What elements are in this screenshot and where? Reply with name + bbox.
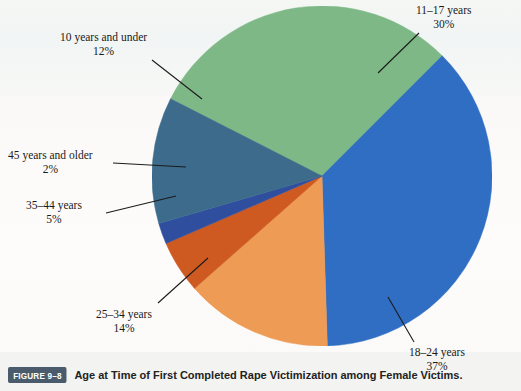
slice-label-25-34-years: 25–34 years 14% xyxy=(96,307,152,336)
slice-label-name: 35–44 years xyxy=(26,199,82,211)
pie-chart xyxy=(152,6,492,346)
slice-label-name: 25–34 years xyxy=(96,308,152,320)
slice-label-percent: 12% xyxy=(60,44,147,58)
slice-label-percent: 30% xyxy=(416,17,471,31)
slice-label-percent: 5% xyxy=(26,212,82,226)
figure-number-badge: FIGURE 9–8 xyxy=(8,367,67,383)
pie-slice-group xyxy=(152,6,492,346)
slice-label-name: 45 years and older xyxy=(8,149,93,161)
slice-label-45-years-and-older: 45 years and older 2% xyxy=(8,148,93,177)
slice-label-name: 11–17 years xyxy=(416,4,471,16)
slice-label-percent: 2% xyxy=(8,162,93,176)
slice-label-10-years-and-under: 10 years and under 12% xyxy=(60,30,147,59)
pie-chart-svg xyxy=(152,6,492,346)
figure-page: 11–17 years 30% 18–24 years 37% 25–34 ye… xyxy=(0,0,521,391)
slice-label-name: 10 years and under xyxy=(60,31,147,43)
slice-label-11-17-years: 11–17 years 30% xyxy=(416,3,471,32)
slice-label-percent: 14% xyxy=(96,321,152,335)
figure-caption-text: Age at Time of First Completed Rape Vict… xyxy=(74,369,462,381)
slice-label-name: 18–24 years xyxy=(409,346,465,358)
figure-caption: FIGURE 9–8 Age at Time of First Complete… xyxy=(8,367,463,383)
slice-label-35-44-years: 35–44 years 5% xyxy=(26,198,82,227)
